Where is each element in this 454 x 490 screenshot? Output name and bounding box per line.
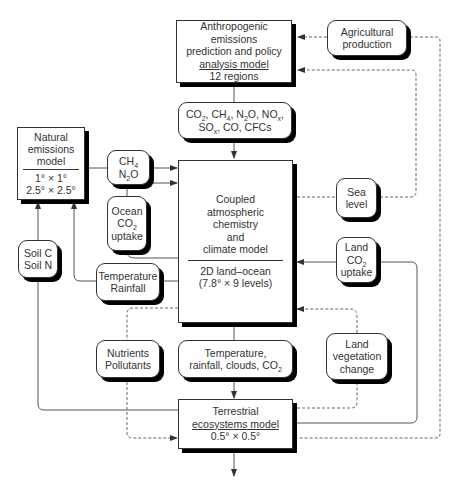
climate-variables-box: Temperature, rainfall, clouds, CO2 (178, 340, 293, 378)
ocean-line1: Ocean (112, 205, 143, 218)
land-veg-line2: vegetation (333, 350, 381, 363)
anthropogenic-line1: Anthropogenic emissions (177, 20, 291, 45)
coupled-line6: 2D land–ocean (200, 265, 271, 278)
natural-res2: 2.5° × 2.5° (26, 184, 76, 196)
soil-line2: Soil N (24, 259, 52, 272)
natural-res1: 1° × 1° (35, 172, 67, 184)
land-uptake-co2: CO2 (347, 254, 367, 267)
ocean-co2-uptake-box: Ocean CO2 uptake (107, 196, 147, 251)
terrestrial-to-veg-dashed-line (297, 384, 357, 408)
sea-line2: level (346, 198, 368, 211)
nutrients-line1: Nutrients (107, 347, 149, 360)
soil-line1: Soil C (24, 247, 52, 260)
anthropogenic-emissions-model-box: Anthropogenic emissions prediction and p… (176, 20, 292, 83)
climate-vars-line2: rainfall, clouds, CO2 (189, 359, 282, 372)
agricultural-line1: Agricultural (341, 26, 394, 39)
agricultural-production-box: Agricultural production (327, 20, 407, 56)
sea-line1: Sea (347, 186, 366, 199)
terrestrial-line1: Terrestrial (212, 405, 258, 418)
land-co2-uptake-box: Land CO2 uptake (336, 237, 377, 283)
ocean-co2: CO2 (117, 217, 137, 230)
natural-emissions-model-box: Natural emissions model 1° × 1° 2.5° × 2… (17, 127, 85, 200)
coupled-line5: climate model (203, 243, 268, 256)
coupled-separator (188, 260, 283, 261)
nutrients-line2: Pollutants (105, 359, 151, 372)
natural-separator (23, 169, 78, 170)
sea-level-box: Sea level (336, 178, 377, 218)
ch4-n2o-box: CH4 N2O (107, 150, 150, 185)
temp-rain-line1: Temperature (99, 270, 158, 283)
coupled-climate-model-box: Coupled atmospheric chemistry and climat… (178, 160, 293, 323)
nutrients-pollutants-box: Nutrients Pollutants (96, 340, 160, 378)
terrestrial-ecosystems-model-box: Terrestrial ecosystems model 0.5° × 0.5° (178, 399, 293, 449)
anthropogenic-line2: prediction and policy (186, 45, 282, 58)
ch4-label: CH4 (119, 155, 138, 168)
gases-line2: SOx, CO, CFCs (199, 121, 272, 134)
anthropogenic-regions: 12 regions (209, 70, 258, 83)
emitted-gases-box: CO2, CH4, N2O, NOx, SOx, CO, CFCs (178, 102, 292, 139)
anthropogenic-line3: analysis model (199, 58, 268, 71)
terrestrial-resolution: 0.5° × 0.5° (211, 430, 261, 443)
natural-line1: Natural (34, 131, 68, 143)
temperature-rainfall-box: Temperature Rainfall (96, 263, 160, 301)
natural-line3: model (37, 155, 66, 167)
land-uptake-line1: Land (345, 241, 368, 254)
coupled-line7: (7.8° × 9 levels) (199, 277, 272, 290)
gases-line1: CO2, CH4, N2O, NOx, (186, 108, 284, 121)
coupled-to-nutrients-dashed-line (127, 308, 178, 340)
ocean-line3: uptake (111, 230, 143, 243)
terrestrial-line2: ecosystems model (192, 418, 279, 431)
natural-line2: emissions (28, 143, 75, 155)
land-vegetation-change-box: Land vegetation change (326, 333, 388, 380)
coupled-to-ocean-uptake-line (127, 252, 178, 258)
land-uptake-line3: uptake (341, 266, 373, 279)
temp-rain-line2: Rainfall (110, 282, 145, 295)
veg-to-coupled-dashed-arrow (297, 309, 357, 333)
coupled-line1: Coupled (216, 193, 255, 206)
land-veg-line1: Land (345, 338, 368, 351)
agricultural-line2: production (342, 38, 391, 51)
climate-vars-line1: Temperature, (205, 347, 267, 360)
coupled-line3: chemistry (213, 218, 258, 231)
coupled-line2: atmospheric (207, 206, 264, 219)
temp-rain-to-natural-arrow (74, 202, 96, 281)
n2o-label: N2O (119, 168, 139, 181)
coupled-line4: and (227, 231, 245, 244)
land-veg-line3: change (340, 363, 374, 376)
soil-carbon-nitrogen-box: Soil C Soil N (18, 240, 58, 278)
